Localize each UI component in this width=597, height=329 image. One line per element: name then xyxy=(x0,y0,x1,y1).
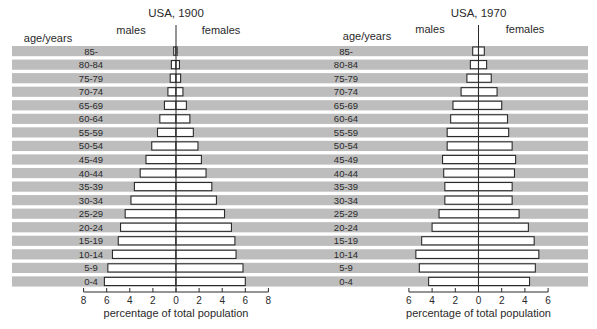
bar-females-45-49 xyxy=(176,155,201,163)
age-labels: 85-80-8475-7970-7465-6960-6455-5950-5445… xyxy=(79,46,103,287)
bar-males-25-29 xyxy=(439,210,478,218)
bar-females-35-39 xyxy=(479,183,513,191)
age-label: 75-79 xyxy=(334,73,358,84)
age-label: 40-44 xyxy=(79,168,103,179)
x-tick-label: 4 xyxy=(219,295,225,306)
bar-females-25-29 xyxy=(479,210,520,218)
bar-females-65-69 xyxy=(479,101,502,109)
bar-females-5-9 xyxy=(479,264,536,272)
age-label: 75-79 xyxy=(79,73,103,84)
bar-males-35-39 xyxy=(134,183,176,191)
age-axis-header: age/years xyxy=(343,30,392,42)
x-tick-label: 4 xyxy=(127,295,133,306)
bar-females-80-84 xyxy=(176,61,179,69)
age-label: 65-69 xyxy=(334,100,358,111)
bar-males-60-64 xyxy=(451,115,479,123)
bar-males-40-44 xyxy=(140,169,176,177)
males-label: males xyxy=(116,24,146,36)
bar-males-70-74 xyxy=(168,88,176,96)
age-label: 80-84 xyxy=(334,59,358,70)
chart-title: USA, 1900 xyxy=(148,7,204,19)
bar-males-0-4 xyxy=(104,277,176,285)
age-label: 5-9 xyxy=(84,262,98,273)
bar-males-45-49 xyxy=(443,155,479,163)
bar-males-75-79 xyxy=(467,74,479,82)
x-axis: 864202468 xyxy=(81,288,272,306)
age-label: 55-59 xyxy=(79,127,103,138)
x-tick-label: 0 xyxy=(173,295,179,306)
bar-females-55-59 xyxy=(176,128,193,136)
age-axis-header: age/years xyxy=(24,32,73,44)
bar-males-30-34 xyxy=(131,196,176,204)
bar-males-65-69 xyxy=(453,101,479,109)
bar-females-75-79 xyxy=(479,74,492,82)
bar-males-10-14 xyxy=(416,250,479,258)
bar-males-25-29 xyxy=(125,210,176,218)
x-tick-label: 6 xyxy=(243,295,249,306)
bar-females-70-74 xyxy=(479,88,498,96)
bar-females-85- xyxy=(479,47,485,55)
bar-males-55-59 xyxy=(158,128,176,136)
bar-males-80-84 xyxy=(470,61,478,69)
bar-males-20-24 xyxy=(121,223,176,231)
bar-females-20-24 xyxy=(479,223,529,231)
bar-females-5-9 xyxy=(176,264,243,272)
age-labels: 85-80-8475-7970-7465-6960-6455-5950-5445… xyxy=(334,46,358,287)
age-label: 50-54 xyxy=(79,140,103,151)
bar-males-45-49 xyxy=(146,155,176,163)
bar-females-55-59 xyxy=(479,128,509,136)
age-label: 70-74 xyxy=(334,86,358,97)
bar-females-50-54 xyxy=(176,142,198,150)
x-axis-title: percentage of total population xyxy=(406,307,551,319)
x-tick-label: 6 xyxy=(545,295,551,306)
bar-males-50-54 xyxy=(152,142,176,150)
age-label: 20-24 xyxy=(79,222,103,233)
age-label: 35-39 xyxy=(334,181,358,192)
bar-females-15-19 xyxy=(176,237,235,245)
x-tick-label: 6 xyxy=(406,295,412,306)
age-label: 65-69 xyxy=(79,100,103,111)
age-label: 85- xyxy=(339,46,353,57)
bar-males-15-19 xyxy=(118,237,176,245)
age-label: 5-9 xyxy=(339,262,353,273)
row-band xyxy=(12,46,588,56)
bar-males-85- xyxy=(473,47,479,55)
age-label: 25-29 xyxy=(334,208,358,219)
x-axis: 6420246 xyxy=(406,288,551,306)
bar-females-0-4 xyxy=(176,277,245,285)
bar-females-35-39 xyxy=(176,183,212,191)
x-tick-label: 4 xyxy=(429,295,435,306)
age-label: 15-19 xyxy=(79,235,103,246)
age-label: 45-49 xyxy=(79,154,103,165)
bar-females-60-64 xyxy=(176,115,190,123)
age-label: 45-49 xyxy=(334,154,358,165)
bar-females-75-79 xyxy=(176,74,181,82)
bar-males-65-69 xyxy=(164,101,176,109)
age-label: 30-34 xyxy=(334,195,358,206)
bar-males-20-24 xyxy=(432,223,478,231)
age-label: 60-64 xyxy=(334,113,358,124)
age-label: 0-4 xyxy=(339,276,353,287)
males-label: males xyxy=(415,23,445,35)
x-tick-label: 4 xyxy=(522,295,528,306)
bar-males-55-59 xyxy=(447,128,478,136)
age-label: 20-24 xyxy=(334,222,358,233)
bar-females-50-54 xyxy=(479,142,513,150)
bar-males-30-34 xyxy=(445,196,479,204)
age-label: 0-4 xyxy=(84,276,98,287)
bar-females-30-34 xyxy=(176,196,216,204)
x-tick-label: 8 xyxy=(266,295,272,306)
age-label: 10-14 xyxy=(79,249,103,260)
chart-title: USA, 1970 xyxy=(451,7,507,19)
age-label: 60-64 xyxy=(79,113,103,124)
population-pyramid-figure: USA, 1900 males females age/years 85-80-… xyxy=(0,0,597,329)
age-label: 85- xyxy=(84,46,98,57)
females-label: females xyxy=(506,23,545,35)
bar-males-15-19 xyxy=(422,237,479,245)
bar-females-65-69 xyxy=(176,101,186,109)
x-tick-label: 2 xyxy=(453,295,459,306)
age-label: 15-19 xyxy=(334,235,358,246)
bar-females-25-29 xyxy=(176,210,225,218)
bar-males-10-14 xyxy=(112,250,176,258)
age-label: 35-39 xyxy=(79,181,103,192)
